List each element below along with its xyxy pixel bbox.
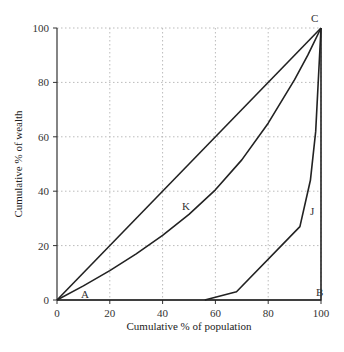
x-tick-label: 60 [210, 307, 222, 319]
x-axis-title: Cumulative % of population [127, 320, 252, 332]
x-tick-label: 0 [54, 307, 60, 319]
y-axis-title: Cumulative % of wealth [12, 110, 24, 218]
data-series [57, 28, 321, 300]
label-a: A [81, 288, 89, 300]
y-tick-label: 60 [38, 131, 50, 143]
label-c: C [311, 12, 318, 24]
label-b: B [316, 286, 323, 298]
label-j: J [310, 205, 315, 217]
x-tick-label: 80 [263, 307, 275, 319]
x-tick-label: 40 [157, 307, 169, 319]
label-k: K [182, 200, 190, 212]
lorenz-chart: 020406080100020406080100 Cumulative % of… [0, 0, 344, 352]
x-tick-label: 100 [313, 307, 330, 319]
y-tick-label: 40 [38, 185, 50, 197]
y-tick-label: 80 [38, 76, 50, 88]
line-equality [57, 28, 321, 300]
y-tick-label: 20 [38, 240, 50, 252]
tick-labels: 020406080100020406080100 [33, 22, 330, 319]
x-tick-label: 20 [104, 307, 116, 319]
y-tick-label: 100 [33, 22, 50, 34]
curve-j [205, 28, 321, 300]
y-tick-label: 0 [44, 294, 50, 306]
